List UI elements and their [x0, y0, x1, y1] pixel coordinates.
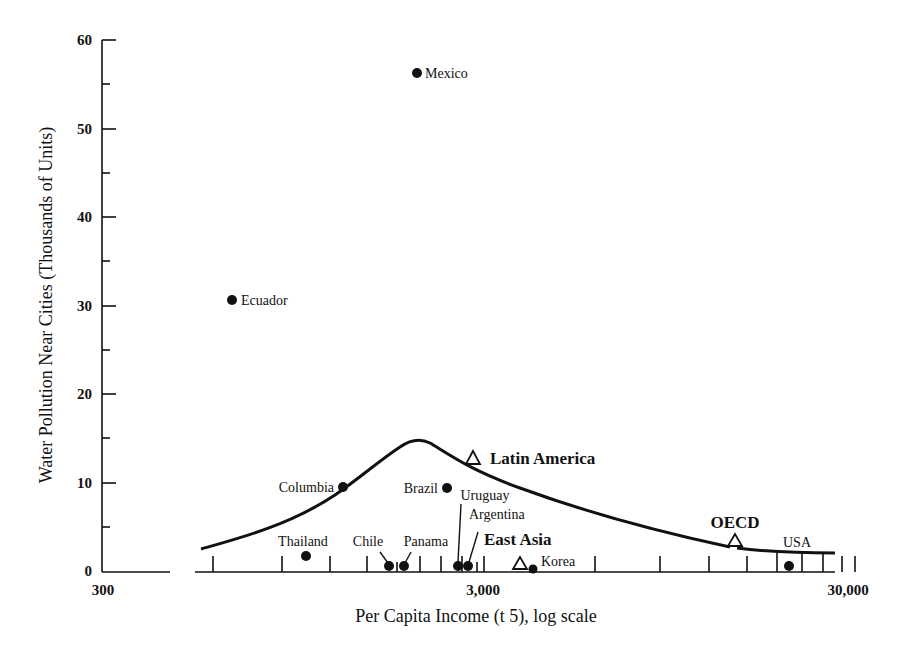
svg-text:30: 30 [77, 298, 92, 314]
x-axis-title: Per Capita Income (t 5), log scale [355, 606, 596, 627]
marker-east-asia [513, 557, 527, 569]
svg-text:300: 300 [92, 582, 115, 598]
x-axis [102, 552, 855, 572]
svg-text:Argentina: Argentina [469, 507, 526, 522]
y-axis-title: Water Pollution Near Cities (Thousands o… [36, 127, 57, 484]
marker-oecd [728, 534, 742, 546]
svg-text:20: 20 [77, 386, 92, 402]
svg-text:60: 60 [77, 32, 92, 48]
marker-panama [399, 561, 409, 571]
marker-columbia [338, 482, 348, 492]
region-labels: Latin America East Asia OECD [484, 449, 760, 549]
y-tick-labels: 60 50 40 30 20 10 0 [77, 32, 92, 579]
svg-text:Panama: Panama [404, 534, 449, 549]
country-labels: Mexico Ecuador Columbia Thailand Chile P… [241, 66, 812, 569]
svg-text:Uruguay: Uruguay [461, 488, 510, 503]
svg-text:50: 50 [77, 121, 92, 137]
y-axis [102, 40, 116, 572]
svg-text:USA: USA [783, 535, 812, 550]
marker-brazil [442, 483, 452, 493]
svg-text:OECD: OECD [710, 513, 759, 532]
svg-text:East Asia: East Asia [484, 530, 552, 549]
marker-usa [784, 561, 794, 571]
country-markers [227, 68, 794, 574]
chart: 60 50 40 30 20 10 0 300 3,000 30,000 Per… [0, 0, 916, 659]
svg-text:Ecuador: Ecuador [241, 293, 288, 308]
marker-korea [529, 565, 538, 574]
svg-text:0: 0 [85, 563, 93, 579]
svg-text:Columbia: Columbia [279, 480, 335, 495]
svg-text:Latin America: Latin America [490, 449, 596, 468]
svg-text:Thailand: Thailand [278, 534, 328, 549]
x-tick-labels: 300 3,000 30,000 [92, 582, 869, 598]
svg-text:Mexico: Mexico [425, 66, 468, 81]
svg-text:Korea: Korea [541, 554, 576, 569]
svg-text:Brazil: Brazil [404, 481, 438, 496]
marker-ecuador [227, 295, 237, 305]
svg-text:3,000: 3,000 [466, 582, 500, 598]
svg-text:40: 40 [77, 209, 92, 225]
svg-text:10: 10 [77, 475, 92, 491]
svg-text:Chile: Chile [353, 534, 383, 549]
svg-text:30,000: 30,000 [827, 582, 868, 598]
marker-uruguay [453, 561, 463, 571]
marker-mexico [412, 68, 422, 78]
marker-argentina [463, 561, 473, 571]
marker-chile [384, 561, 394, 571]
marker-thailand [301, 551, 311, 561]
marker-latin-america [466, 451, 480, 464]
